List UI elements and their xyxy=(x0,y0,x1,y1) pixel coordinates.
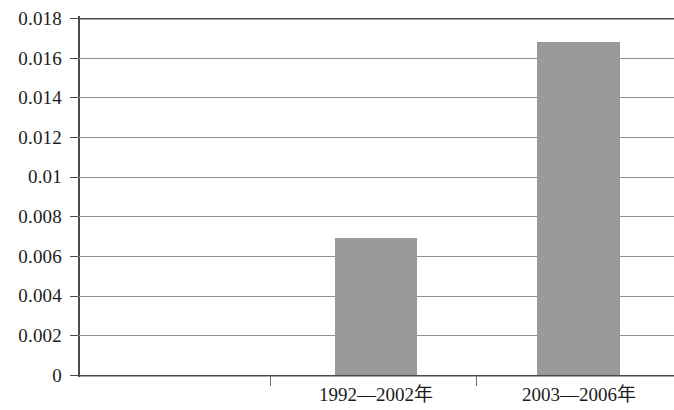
x-axis-category-label: 1992—2002年 xyxy=(305,384,447,406)
y-axis-tick-label: 0.004 xyxy=(0,286,62,305)
y-axis-tick-label: 0.008 xyxy=(0,207,62,226)
y-axis-tick-label: 0.018 xyxy=(0,9,62,28)
y-axis-tick-label: 0.002 xyxy=(0,326,62,345)
x-axis-tick-mark xyxy=(476,376,477,386)
y-axis-tick-label: 0.016 xyxy=(0,49,62,68)
x-axis-tick-mark xyxy=(270,376,271,386)
x-axis-category-label: 2003—2006年 xyxy=(508,384,650,406)
x-axis-baseline xyxy=(78,375,674,376)
y-axis-tick-label: 0.014 xyxy=(0,88,62,107)
gridline xyxy=(78,18,674,19)
bar-2003-2006 xyxy=(537,42,620,375)
y-axis-tick-label: 0 xyxy=(0,366,62,385)
bar-1992-2002 xyxy=(335,238,417,375)
y-axis-tick-label: 0.006 xyxy=(0,247,62,266)
bar-chart: 0.018 0.016 0.014 0.012 0.01 0.008 0.006… xyxy=(0,0,674,410)
y-axis-tick-label: 0.01 xyxy=(0,167,62,186)
plot-area xyxy=(78,18,674,375)
y-axis-labels: 0.018 0.016 0.014 0.012 0.01 0.008 0.006… xyxy=(0,0,62,410)
y-axis-tick-label: 0.012 xyxy=(0,128,62,147)
